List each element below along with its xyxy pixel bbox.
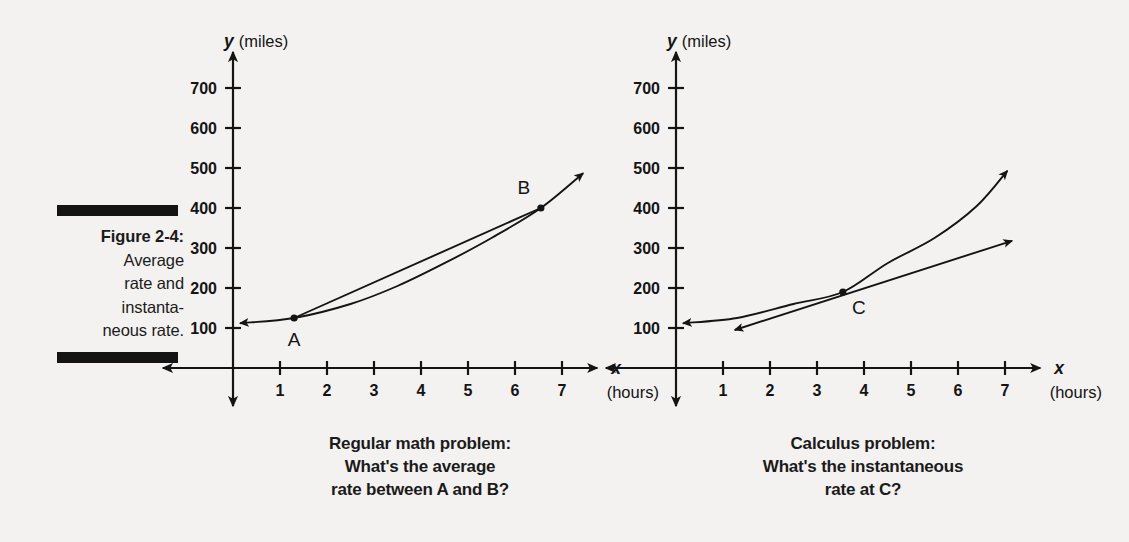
chart-right-canvas: 1234567100200300400500600700y(miles)x(ho…	[603, 0, 1123, 430]
y-tick-label: 700	[190, 80, 217, 97]
y-tick-label: 600	[633, 120, 660, 137]
y-axis-variable: y	[223, 31, 235, 51]
y-axis-title: y(miles)	[666, 31, 731, 51]
data-point-marker-C	[839, 288, 846, 295]
chart-right-caption: Calculus problem: What's the instantaneo…	[603, 432, 1123, 501]
data-point-marker-A	[291, 314, 298, 321]
x-axis-title: x	[1053, 358, 1065, 378]
series-curve-distance-curve	[240, 173, 583, 323]
y-tick-label: 700	[633, 80, 660, 97]
y-tick-label: 300	[633, 240, 660, 257]
series-line-tangent-line-at-C	[735, 241, 1012, 330]
y-tick-label: 500	[633, 160, 660, 177]
y-tick-label: 200	[633, 280, 660, 297]
x-tick-label: 2	[323, 382, 332, 399]
series-curve-distance-curve	[683, 171, 1007, 323]
axes-group	[163, 52, 597, 406]
y-tick-label: 300	[190, 240, 217, 257]
y-tick-label: 400	[633, 200, 660, 217]
series-line-secant-line-A-to-B	[294, 208, 541, 318]
x-tick-label: 4	[417, 382, 426, 399]
x-ticks-group: 1234567	[719, 361, 1010, 399]
x-axis-units: (hours)	[1050, 383, 1102, 401]
y-tick-label: 100	[190, 320, 217, 337]
chart-left-caption-line-3: rate between A and B?	[160, 478, 680, 501]
x-tick-label: 3	[370, 382, 379, 399]
x-tick-label: 1	[276, 382, 285, 399]
y-tick-label: 500	[190, 160, 217, 177]
x-tick-label: 4	[860, 382, 869, 399]
chart-average-rate: 1234567100200300400500600700y(miles)x(ho…	[160, 0, 680, 542]
chart-right-caption-line-2: What's the instantaneous	[603, 455, 1123, 478]
chart-right-caption-line-1: Calculus problem:	[603, 432, 1123, 455]
y-tick-label: 200	[190, 280, 217, 297]
x-tick-label: 7	[1001, 382, 1010, 399]
point-label-A: A	[288, 329, 301, 350]
x-tick-label: 1	[719, 382, 728, 399]
figure-page: Figure 2-4: Average rate and instanta- n…	[0, 0, 1129, 542]
y-tick-label: 100	[633, 320, 660, 337]
x-ticks-group: 1234567	[276, 361, 567, 399]
y-axis-title: y(miles)	[223, 31, 288, 51]
x-tick-label: 2	[766, 382, 775, 399]
x-tick-label: 3	[813, 382, 822, 399]
y-axis-units: (miles)	[239, 32, 289, 50]
point-label-C: C	[852, 297, 866, 318]
chart-left-caption-line-1: Regular math problem:	[160, 432, 680, 455]
x-tick-label: 7	[558, 382, 567, 399]
chart-right-caption-line-3: rate at C?	[603, 478, 1123, 501]
x-tick-label: 6	[954, 382, 963, 399]
y-axis-variable: y	[666, 31, 678, 51]
chart-left-caption-line-2: What's the average	[160, 455, 680, 478]
y-tick-label: 600	[190, 120, 217, 137]
data-point-marker-B	[537, 204, 544, 211]
y-axis-units: (miles)	[682, 32, 732, 50]
chart-left-canvas: 1234567100200300400500600700y(miles)x(ho…	[160, 0, 680, 430]
point-label-B: B	[518, 177, 531, 198]
chart-left-caption: Regular math problem: What's the average…	[160, 432, 680, 501]
x-tick-label: 5	[907, 382, 916, 399]
axes-group	[606, 52, 1040, 406]
y-tick-label: 400	[190, 200, 217, 217]
chart-instantaneous-rate: 1234567100200300400500600700y(miles)x(ho…	[603, 0, 1123, 542]
x-tick-label: 5	[464, 382, 473, 399]
x-tick-label: 6	[511, 382, 520, 399]
x-axis-variable: x	[1053, 358, 1065, 378]
